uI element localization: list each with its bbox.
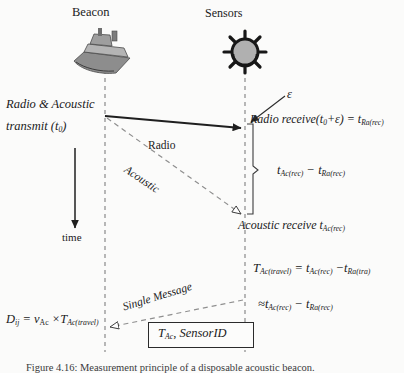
transmit-label-line2: transmit (t0) [6,120,66,135]
distance-T-subscript: Ac(travel) [67,318,98,327]
travel-t2-subscript: Ra(tra) [348,267,371,276]
approximate-travel-equation: ≈tAc(rec) − tRa(rec) [258,298,333,313]
interval-minus: − [307,163,315,177]
sensors-caption: Sensors [205,7,242,20]
sensor-buoy-icon [224,31,266,73]
acoustic-receive-subscript: Ac(rec) [323,224,345,233]
acoustic-receive-text: Acoustic receive [238,218,317,232]
message-T-subscript: Ac [165,332,173,341]
transmit-prefix: transmit (t [6,119,58,133]
approx-symbol: ≈ [258,297,265,311]
travel-T: T [253,261,260,275]
radio-receive-subscript: Ra(rec) [361,118,383,127]
radio-receive-equals: = [347,112,355,126]
travel-equals: = [295,261,303,275]
figure-caption: Figure 4.16: Measurement principle of a … [26,362,315,373]
time-axis-label: time [62,232,82,244]
acoustic-receive-label: Acoustic receive tAc(rec) [238,219,345,233]
distance-equation: Dij = vAc ×TAc(travel) [6,313,99,328]
beacon-caption: Beacon [72,6,109,19]
transmit-suffix: ) [62,119,66,133]
epsilon-label: ε [287,88,292,101]
message-sensor-id: SensorID [179,326,226,340]
radio-receive-equation: Radio receive(t0+ε) = tRa(rec) [250,113,384,127]
transmit-label-line1: Radio & Acoustic [6,98,95,111]
radio-receive-eps: +ε) [327,112,344,126]
approx-t2-subscript: Ra(rec) [309,303,332,312]
distance-D-subscript: ij [15,318,19,327]
ship-icon [74,28,130,73]
approx-minus: − [294,297,302,311]
radio-path-label: Radio [148,139,175,151]
distance-D: D [6,312,15,326]
message-payload-text: TAc, SensorID [158,327,227,342]
message-comma: , [173,326,176,340]
figure-container: Beacon Sensors Radio & Acoustic transmit… [0,0,404,373]
radio-receive-text: Radio receive [250,112,316,126]
message-T: T [158,326,165,340]
interval-t1-subscript: Ac(rec) [280,169,303,178]
interval-bracket [247,124,258,214]
travel-t1-subscript: Ac(rec) [310,267,333,276]
travel-time-equation: TAc(travel) = tAc(rec) −tRa(tra) [253,262,370,277]
travel-T-subscript: Ac(travel) [260,267,291,276]
interval-difference-expression: tAc(rec) − tRa(rec) [277,164,345,179]
distance-v-subscript: Ac [40,318,49,327]
approx-t1-subscript: Ac(rec) [268,303,291,312]
radio-message-arrow [105,116,241,128]
distance-equals: = [22,312,30,326]
distance-times: × [52,312,60,326]
travel-minus: − [336,261,344,275]
interval-t2-subscript: Ra(rec) [322,169,345,178]
message-payload-box: TAc, SensorID [148,322,254,348]
